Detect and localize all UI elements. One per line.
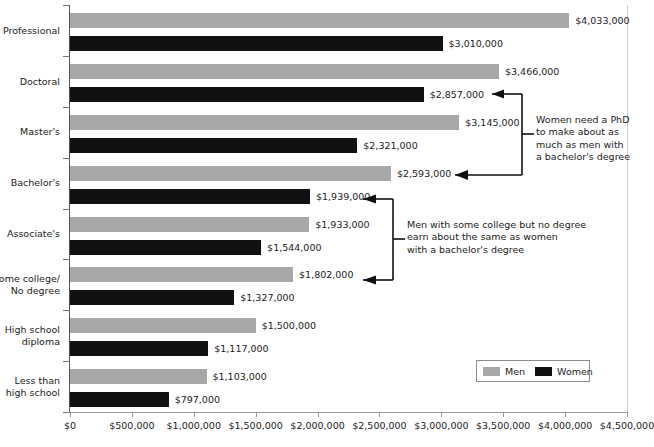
chart-legend: Men Women xyxy=(476,360,590,382)
bar-women xyxy=(70,189,310,204)
x-axis-tick-label: $2,500,000 xyxy=(352,420,406,431)
y-axis-category-label: Bachelor's xyxy=(0,177,60,189)
legend-swatch-men xyxy=(483,367,500,376)
y-axis-tick xyxy=(63,412,70,413)
bar-men xyxy=(70,13,569,28)
x-axis-tick xyxy=(627,412,628,417)
y-axis-category-label: Less thanhigh school xyxy=(0,375,60,398)
bar-group: High schooldiploma$1,500,000$1,117,000 xyxy=(0,310,652,361)
bar-value-label-men: $1,103,000 xyxy=(213,369,267,384)
bar-women xyxy=(70,138,357,153)
bar-value-label-women: $1,117,000 xyxy=(214,341,268,356)
y-axis-category-label: High schooldiploma xyxy=(0,324,60,347)
bar-group: Bachelor's$2,593,000$1,939,000 xyxy=(0,158,652,209)
x-axis-tick xyxy=(70,412,71,417)
x-axis-tick-label: $4,000,000 xyxy=(538,420,592,431)
x-axis-tick xyxy=(256,412,257,417)
legend-label-men: Men xyxy=(505,366,525,377)
y-axis-category-label: Professional xyxy=(0,25,60,37)
bar-group: Some college/No degree$1,802,000$1,327,0… xyxy=(0,259,652,310)
y-axis-category-label: Doctoral xyxy=(0,76,60,88)
bar-women xyxy=(70,290,234,305)
bar-value-label-women: $797,000 xyxy=(175,392,220,407)
y-axis-category-label: Some college/No degree xyxy=(0,273,60,296)
x-axis-tick-label: $0 xyxy=(64,420,76,431)
legend-swatch-women xyxy=(535,367,552,376)
bar-value-label-men: $1,500,000 xyxy=(262,318,316,333)
x-axis-tick-label: $1,500,000 xyxy=(228,420,282,431)
bar-men xyxy=(70,217,309,232)
bar-value-label-men: $3,145,000 xyxy=(465,115,519,130)
bar-value-label-women: $1,939,000 xyxy=(316,189,370,204)
legend-label-women: Women xyxy=(557,366,593,377)
bar-value-label-women: $2,857,000 xyxy=(430,87,484,102)
bar-value-label-men: $4,033,000 xyxy=(575,13,629,28)
x-axis-tick-label: $2,000,000 xyxy=(290,420,344,431)
bar-men xyxy=(70,64,499,79)
bar-value-label-men: $1,933,000 xyxy=(315,217,369,232)
bar-group: Doctoral$3,466,000$2,857,000 xyxy=(0,56,652,107)
bar-women xyxy=(70,341,208,356)
bar-men xyxy=(70,115,459,130)
bar-group: Professional$4,033,000$3,010,000 xyxy=(0,5,652,56)
y-axis-category-label: Master's xyxy=(0,126,60,138)
x-axis-tick-label: $4,500,000 xyxy=(600,420,654,431)
bar-value-label-women: $1,327,000 xyxy=(240,290,294,305)
bar-men xyxy=(70,166,391,181)
annotation-text-some-college: Men with some college but no degree earn… xyxy=(407,219,632,256)
bar-women xyxy=(70,87,424,102)
x-axis-tick-label: $1,000,000 xyxy=(167,420,221,431)
bar-value-label-women: $3,010,000 xyxy=(449,36,503,51)
x-axis-tick-label: $3,000,000 xyxy=(414,420,468,431)
x-axis-tick xyxy=(441,412,442,417)
y-axis-category-label: Associate's xyxy=(0,228,60,240)
x-axis-line xyxy=(69,412,628,413)
bar-men xyxy=(70,318,256,333)
bar-value-label-men: $1,802,000 xyxy=(299,267,353,282)
bar-value-label-women: $1,544,000 xyxy=(267,240,321,255)
x-axis-tick-label: $500,000 xyxy=(109,420,154,431)
x-axis-tick-label: $3,500,000 xyxy=(476,420,530,431)
bar-value-label-women: $2,321,000 xyxy=(363,138,417,153)
bar-women xyxy=(70,392,169,407)
x-axis-tick xyxy=(132,412,133,417)
x-axis-tick xyxy=(318,412,319,417)
x-axis-tick xyxy=(565,412,566,417)
bar-men xyxy=(70,369,207,384)
bar-value-label-men: $3,466,000 xyxy=(505,64,559,79)
bar-women xyxy=(70,240,261,255)
x-axis-tick xyxy=(194,412,195,417)
annotation-text-phd: Women need a PhD to make about as much a… xyxy=(536,114,641,164)
bar-value-label-men: $2,593,000 xyxy=(397,166,451,181)
x-axis-tick xyxy=(379,412,380,417)
bar-men xyxy=(70,267,293,282)
x-axis-tick xyxy=(503,412,504,417)
bar-women xyxy=(70,36,443,51)
